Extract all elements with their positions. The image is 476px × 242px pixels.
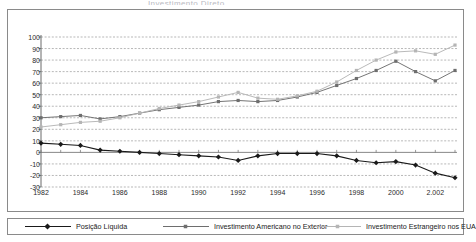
legend-item[interactable]: Investimento Estrangeiro nos EUA — [308, 219, 476, 234]
square-marker-icon — [414, 70, 417, 73]
square-marker-icon — [177, 103, 180, 106]
legend-swatch — [25, 226, 71, 227]
square-marker-icon — [375, 58, 378, 61]
square-marker-icon — [434, 53, 437, 56]
x-axis-tick-label: 1986 — [112, 189, 128, 196]
diamond-marker-icon — [196, 153, 201, 158]
x-axis-tick-label: 1996 — [309, 189, 325, 196]
legend-swatch — [315, 226, 361, 227]
square-marker-icon — [335, 80, 338, 83]
legend-label: Posição Líquida — [76, 222, 127, 231]
diamond-marker-icon — [295, 151, 300, 156]
square-marker-icon — [296, 94, 299, 97]
y-axis-tick-label: 30 — [32, 114, 40, 121]
legend-swatch — [163, 226, 209, 227]
square-marker-icon — [59, 115, 62, 118]
diamond-marker-icon — [98, 147, 103, 152]
diamond-marker-icon — [236, 158, 241, 163]
y-axis-tick-label: 70 — [32, 68, 40, 75]
diamond-marker-icon — [117, 149, 122, 154]
series-line — [41, 61, 455, 119]
chart-title-clipped: Investimento Direto — [148, 0, 334, 5]
square-marker-icon — [315, 90, 318, 93]
diamond-marker-icon — [334, 153, 339, 158]
square-marker-icon — [375, 69, 378, 72]
square-marker-icon — [79, 114, 82, 117]
square-marker-icon — [184, 225, 188, 229]
x-axis-tick-label: 1988 — [151, 189, 167, 196]
square-marker-icon — [99, 120, 102, 123]
square-marker-icon — [217, 100, 220, 103]
legend-item[interactable]: Investimento Americano no Exterior — [156, 219, 327, 234]
square-marker-icon — [335, 84, 338, 87]
series-1 — [39, 60, 456, 121]
chart-plot-frame: 1009080706050403020100-10-20-30 19821984… — [7, 9, 464, 212]
x-axis-tick-label: 1982 — [33, 189, 49, 196]
diamond-marker-icon — [275, 151, 280, 156]
square-marker-icon — [394, 50, 397, 53]
square-marker-icon — [434, 79, 437, 82]
y-axis-tick-label: 50 — [32, 91, 40, 98]
chart-plot-area — [8, 10, 463, 211]
square-marker-icon — [453, 43, 456, 46]
diamond-marker-icon — [216, 154, 221, 159]
square-marker-icon — [355, 69, 358, 72]
square-marker-icon — [79, 121, 82, 124]
square-marker-icon — [118, 116, 121, 119]
square-marker-icon — [197, 100, 200, 103]
chart-legend: Posição LíquidaInvestimento Americano no… — [7, 218, 464, 235]
diamond-marker-icon — [433, 171, 438, 176]
series-2 — [39, 43, 456, 128]
square-marker-icon — [355, 77, 358, 80]
y-axis-tick-label: 20 — [32, 126, 40, 133]
diamond-marker-icon — [58, 142, 63, 147]
square-marker-icon — [276, 98, 279, 101]
legend-item[interactable]: Posição Líquida — [18, 219, 127, 234]
y-axis-tick-label: 90 — [32, 45, 40, 52]
diamond-marker-icon — [374, 160, 379, 165]
series-0 — [38, 141, 457, 181]
x-axis-labels: 1982198419861988199019921994199619982000… — [8, 189, 463, 203]
square-marker-icon — [59, 123, 62, 126]
y-axis-tick-label: 80 — [32, 57, 40, 64]
x-axis-tick-label: 2.002 — [427, 189, 445, 196]
series-line — [41, 45, 455, 127]
diamond-marker-icon — [393, 159, 398, 164]
y-axis-tick-label: -10 — [30, 160, 40, 167]
series-line — [41, 143, 455, 178]
diamond-marker-icon — [44, 223, 50, 229]
y-axis-tick-label: 40 — [32, 103, 40, 110]
diamond-marker-icon — [413, 162, 418, 167]
square-marker-icon — [336, 225, 340, 229]
diamond-marker-icon — [176, 152, 181, 157]
y-axis-labels: 1009080706050403020100-10-20-30 — [14, 10, 40, 211]
square-marker-icon — [158, 107, 161, 110]
square-marker-icon — [237, 99, 240, 102]
square-marker-icon — [394, 60, 397, 63]
square-marker-icon — [138, 112, 141, 115]
x-axis-tick-label: 1998 — [349, 189, 365, 196]
square-marker-icon — [256, 97, 259, 100]
x-axis-tick-label: 2000 — [388, 189, 404, 196]
diamond-marker-icon — [452, 175, 457, 180]
legend-label: Investimento Estrangeiro nos EUA — [366, 222, 476, 231]
y-axis-tick-label: -20 — [30, 172, 40, 179]
x-axis-tick-label: 1994 — [270, 189, 286, 196]
diamond-marker-icon — [157, 151, 162, 156]
diamond-marker-icon — [255, 153, 260, 158]
diamond-marker-icon — [78, 143, 83, 148]
y-axis-tick-label: 10 — [32, 137, 40, 144]
square-marker-icon — [414, 49, 417, 52]
y-axis-tick-label: 60 — [32, 80, 40, 87]
y-axis-tick-label: 0 — [36, 149, 40, 156]
x-axis-tick-label: 1990 — [191, 189, 207, 196]
diamond-marker-icon — [314, 151, 319, 156]
square-marker-icon — [237, 91, 240, 94]
x-axis-tick-label: 1992 — [230, 189, 246, 196]
x-axis-tick-label: 1984 — [73, 189, 89, 196]
square-marker-icon — [217, 95, 220, 98]
diamond-marker-icon — [354, 158, 359, 163]
square-marker-icon — [256, 100, 259, 103]
diamond-marker-icon — [137, 150, 142, 155]
